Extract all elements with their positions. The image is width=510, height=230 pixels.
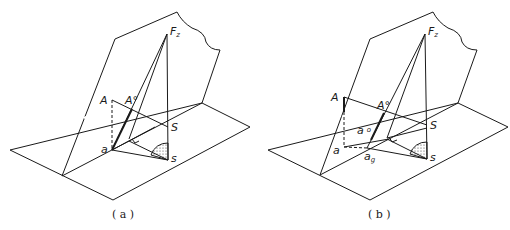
caption-b: ( b ) (368, 208, 391, 221)
caption-a: ( a ) (112, 208, 134, 221)
right-angle-mark (389, 137, 397, 142)
force-line-vertical (425, 34, 427, 159)
line-a0-segment (371, 113, 384, 140)
horizontal-plane (10, 103, 250, 200)
label-A0: A° (124, 94, 138, 107)
label-fz: Fz (170, 25, 180, 39)
line-a-to-a0 (112, 109, 132, 150)
label-S: S (430, 119, 437, 132)
label-fz: Fz (428, 25, 438, 39)
label-A0: A° (376, 99, 390, 112)
label-A: A (99, 94, 108, 107)
line-a-to-ag-dashed (344, 147, 367, 148)
force-line-vertical (167, 34, 168, 160)
label-a: a (333, 144, 340, 157)
label-a: a (101, 143, 108, 156)
panel-b: Fz A A° S ao a ag s ( b ) (268, 12, 508, 221)
label-S: S (171, 121, 178, 134)
label-s: s (430, 151, 436, 164)
right-angle-mark (132, 139, 139, 143)
label-A: A (330, 91, 339, 104)
label-s: s (171, 152, 177, 165)
panel-a: Fz A A° S a s ( a ) (10, 12, 250, 221)
diagram-canvas: Fz A A° S a s ( a ) (0, 0, 510, 230)
label-ag: ag (364, 150, 376, 164)
